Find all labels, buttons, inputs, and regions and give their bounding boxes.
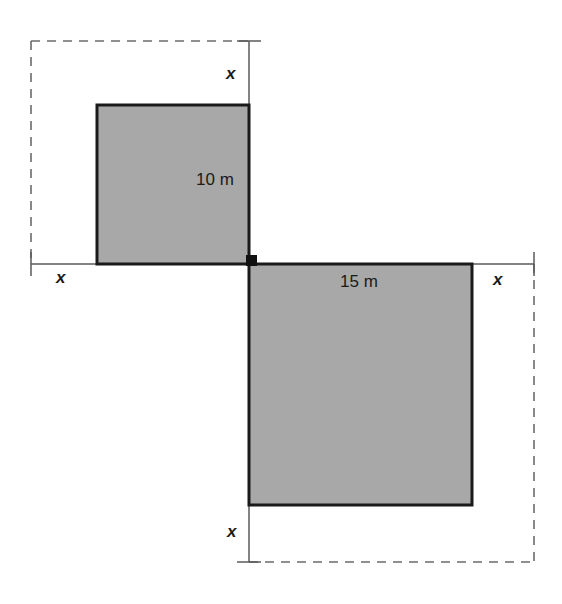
label-x-right: x [493,270,503,290]
square-15m [249,264,472,505]
right-angle-marker-icon [246,255,257,266]
label-side-10m: 10 m [196,170,234,190]
label-x-top: x [226,64,236,84]
label-x-left: x [56,268,66,288]
label-side-15m: 15 m [340,272,378,292]
label-x-bottom: x [227,522,237,542]
figure-drawing [0,0,562,604]
geometry-figure: x x x x 10 m 15 m [0,0,562,604]
